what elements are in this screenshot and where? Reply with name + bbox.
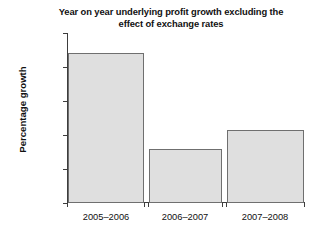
x-tick-label: 2007–2008 xyxy=(220,212,310,222)
y-tick-mark xyxy=(63,101,67,102)
plot-area: 0.0% 5.0% 10.0% 15.0% 20.0% 25.0% 2005–2… xyxy=(67,33,305,203)
x-tick-mark xyxy=(222,203,223,207)
chart-title-line-1: Year on year underlying profit growth ex… xyxy=(59,6,284,17)
x-tick-mark xyxy=(226,203,227,207)
y-tick-mark xyxy=(63,169,67,170)
x-tick-label: 2005–2006 xyxy=(61,212,151,222)
chart-title-line-2: effect of exchange rates xyxy=(119,18,224,29)
y-tick-mark xyxy=(63,135,67,136)
bar-2006-2007 xyxy=(149,149,222,203)
y-axis-title: Percentage growth xyxy=(17,50,28,170)
bar-2005-2006 xyxy=(68,53,144,203)
y-tick-mark xyxy=(63,33,67,34)
x-tick-mark xyxy=(148,203,149,207)
chart-figure: Year on year underlying profit growth ex… xyxy=(0,0,320,230)
x-tick-label: 2006–2007 xyxy=(140,212,230,222)
y-tick-mark xyxy=(63,67,67,68)
bar-2007-2008 xyxy=(227,130,304,203)
x-tick-mark xyxy=(304,203,305,207)
x-tick-mark xyxy=(144,203,145,207)
x-tick-mark xyxy=(67,203,68,207)
chart-title: Year on year underlying profit growth ex… xyxy=(34,6,308,31)
